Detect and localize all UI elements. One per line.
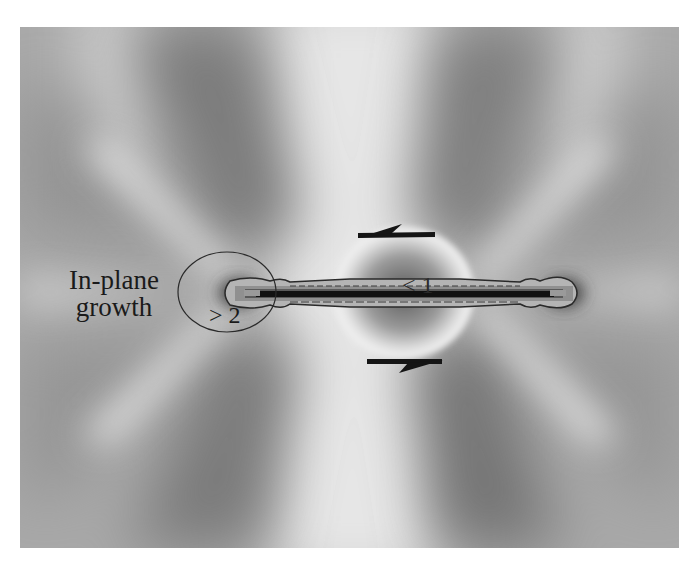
greater-than-2-label: > 2 bbox=[209, 303, 241, 327]
in-plane-growth-label: In-plane growth bbox=[59, 267, 169, 321]
field-map-figure: In-plane growth > 2 < 1 bbox=[20, 27, 679, 548]
in-plane-label-line2: growth bbox=[59, 294, 169, 321]
less-than-1-label: < 1 bbox=[402, 273, 434, 297]
in-plane-label-line1: In-plane bbox=[59, 267, 169, 294]
